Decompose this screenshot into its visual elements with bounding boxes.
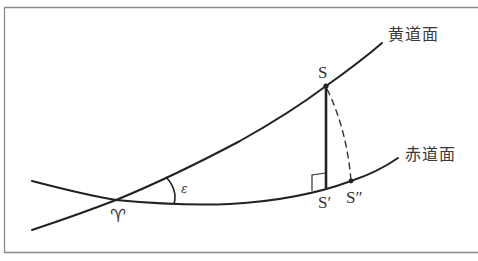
point-S-double-prime bbox=[349, 179, 354, 184]
point-S-prime-label: S′ bbox=[318, 194, 331, 211]
epsilon-angle-arc bbox=[166, 177, 175, 204]
point-S-double-prime-label: S″ bbox=[346, 189, 363, 206]
right-angle-mark bbox=[312, 173, 326, 191]
equator-plane-label: 赤道面 bbox=[405, 147, 456, 163]
ecliptic-plane-label: 黄道面 bbox=[388, 27, 439, 43]
vernal-equinox-aries-icon: ♈ bbox=[110, 207, 126, 225]
dashed-arc bbox=[327, 89, 351, 181]
point-S-label: S bbox=[318, 64, 327, 81]
obliquity-epsilon-label: ε bbox=[181, 183, 187, 195]
diagram-frame: 黄道面 赤道面 S S′ S″ ♈ ε bbox=[0, 0, 478, 261]
point-S bbox=[323, 83, 328, 88]
equator-curve bbox=[32, 158, 398, 205]
